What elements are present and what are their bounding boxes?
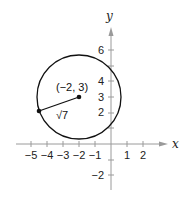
y-tick-label: −2 (91, 169, 104, 181)
x-axis (16, 141, 168, 147)
radius-endpoint (37, 109, 42, 114)
x-tick-label: −4 (41, 149, 54, 161)
x-tick-label: −1 (89, 149, 102, 161)
x-axis-label: x (172, 137, 179, 151)
y-tick-label: 2 (98, 106, 104, 118)
center-label: (−2, 3) (56, 81, 88, 93)
y-tick-label: 3 (98, 91, 104, 103)
radius-label: √7 (56, 109, 68, 121)
y-axis-arrow-icon (109, 27, 114, 36)
coordinate-plane: x y −5 −4 −3 −2 −1 1 2 6 4 3 2 −2 (−2, 3… (0, 0, 187, 197)
x-tick-label: −3 (57, 149, 70, 161)
y-tick-label: 4 (98, 75, 104, 87)
x-tick-label: 2 (140, 149, 146, 161)
x-tick-labels: −5 −4 −3 −2 −1 1 2 (25, 149, 146, 161)
x-tick-label: −5 (25, 149, 38, 161)
x-tick-label: −2 (73, 149, 86, 161)
x-tick-label: 1 (124, 149, 130, 161)
x-axis-arrow-icon (159, 142, 168, 147)
y-axis-label: y (105, 9, 113, 23)
y-axis (108, 27, 114, 190)
y-tick-label: 6 (98, 44, 104, 56)
center-point (77, 95, 82, 100)
